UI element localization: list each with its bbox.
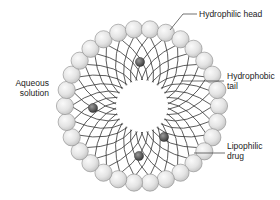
label-hydrophobic-tail: Hydrophobic tail bbox=[227, 71, 275, 91]
hydrophilic-head-sphere bbox=[141, 21, 158, 38]
drug-particle bbox=[134, 151, 143, 160]
drug-particle bbox=[135, 57, 144, 66]
tail-strand bbox=[157, 75, 207, 85]
hydrophilic-head-sphere bbox=[63, 129, 80, 146]
hydrophilic-head-sphere bbox=[209, 81, 226, 98]
hydrophilic-head-sphere bbox=[56, 97, 73, 114]
hydrophilic-heads bbox=[56, 21, 227, 191]
hydrophilic-head-sphere bbox=[210, 97, 227, 114]
tail-strand bbox=[77, 127, 127, 137]
hydrophilic-head-sphere bbox=[209, 113, 226, 130]
leader-hydrophilic-head bbox=[170, 14, 197, 30]
hydrophilic-head-text: Hydrophilic head bbox=[199, 9, 262, 19]
drug-particle bbox=[159, 132, 168, 141]
hydrophilic-head-sphere bbox=[157, 171, 174, 188]
micelle-diagram bbox=[0, 0, 280, 200]
drug-particle bbox=[88, 103, 97, 112]
hydrophilic-head-sphere bbox=[125, 21, 142, 38]
hydrophilic-head-sphere bbox=[58, 81, 75, 98]
lipophilic-text-1: Lipophilic bbox=[227, 141, 262, 151]
hydrophilic-head-sphere bbox=[58, 113, 75, 130]
hydrophobic-tail-text-1: Hydrophobic bbox=[227, 71, 275, 81]
label-hydrophilic-head: Hydrophilic head bbox=[199, 9, 262, 19]
hydrophilic-head-sphere bbox=[141, 174, 158, 191]
label-lipophilic-drug: Lipophilic drug bbox=[227, 141, 262, 161]
aqueous-text-1: Aqueous bbox=[4, 78, 49, 88]
aqueous-text-2: solution bbox=[4, 88, 49, 98]
label-aqueous-solution: Aqueous solution bbox=[4, 78, 49, 98]
tail-strand bbox=[77, 75, 127, 85]
hydrophilic-head-sphere bbox=[110, 24, 127, 41]
hydrophilic-head-sphere bbox=[125, 174, 142, 191]
lipophilic-text-2: drug bbox=[227, 151, 262, 161]
hydrophobic-tail-text-2: tail bbox=[227, 81, 275, 91]
